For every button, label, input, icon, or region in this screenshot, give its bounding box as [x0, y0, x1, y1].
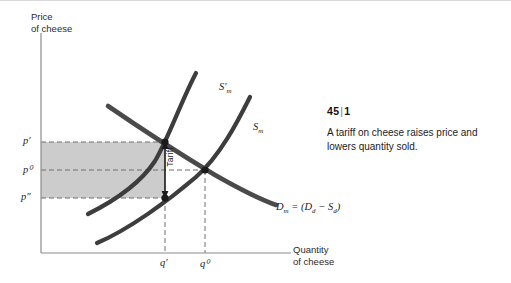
caption-block: 45|1 A tariff on cheese raises price and…	[327, 105, 499, 154]
quantity-tick-q-prime: q′	[160, 257, 168, 268]
y-axis-label-line1: Price	[31, 11, 72, 23]
y-axis-label-line2: of cheese	[31, 23, 72, 35]
point-free-trade-equilibrium	[201, 166, 208, 173]
x-axis-label-line1: Quantity	[293, 244, 334, 256]
price-tick-p-double-prime: p″	[21, 191, 31, 202]
figure-panel: Price of cheese Quantity of cheese p′ p⁰…	[0, 0, 511, 283]
supply-shifted-label-sub: m	[227, 87, 232, 95]
price-tick-p-prime: p′	[23, 135, 31, 146]
figure-number-part: 1	[344, 105, 350, 117]
demand-label-main: D	[276, 201, 284, 212]
demand-label-equals: = (	[289, 201, 305, 212]
tariff-annotation-label: Tariff	[165, 138, 175, 176]
demand-label-d-main: D	[305, 201, 313, 212]
price-tick-p-zero: p⁰	[23, 163, 32, 175]
demand-label-close: )	[337, 201, 341, 212]
y-axis-label: Price of cheese	[31, 11, 72, 34]
figure-number: 45|1	[327, 105, 499, 117]
supply-original-label-sub: m	[258, 127, 263, 135]
supply-shifted-label: S′m	[219, 81, 232, 95]
demand-label: Dm = (Dd − Sd)	[276, 201, 340, 215]
demand-label-minus: −	[316, 201, 328, 212]
x-axis-label: Quantity of cheese	[293, 244, 334, 267]
x-axis-label-line2: of cheese	[293, 256, 334, 268]
supply-original-label: Sm	[253, 121, 263, 135]
quantity-tick-q-zero: q⁰	[200, 257, 209, 269]
figure-number-chapter: 45	[327, 105, 339, 117]
figure-caption-text: A tariff on cheese raises price and lowe…	[327, 126, 499, 154]
